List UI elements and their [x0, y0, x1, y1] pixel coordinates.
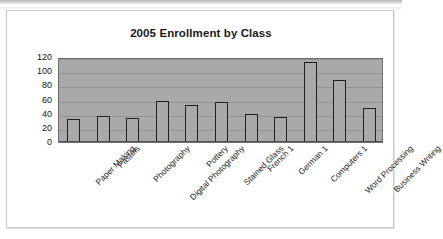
y-tick-label: 120 [37, 53, 52, 62]
y-axis-tick-labels: 020406080100120 [23, 58, 55, 143]
x-axis-category-labels: Paper MakingPastelsPhotographyDigital Ph… [58, 144, 398, 224]
y-tick-label: 60 [42, 96, 52, 105]
bar [363, 108, 376, 142]
y-tick-label: 40 [42, 110, 52, 119]
bar [126, 118, 139, 142]
bar [245, 114, 258, 142]
plot-wrapper [58, 58, 383, 143]
x-category-label: Pastels [116, 144, 142, 170]
chart-card: 2005 Enrollment by Class 020406080100120… [6, 10, 394, 228]
y-tick-label: 80 [42, 81, 52, 90]
bar [333, 80, 346, 142]
bar-series [59, 59, 382, 142]
bar [274, 117, 287, 142]
bar [67, 119, 80, 142]
x-category-label: German 1 [296, 144, 329, 177]
x-axis-line [59, 141, 382, 142]
bar [185, 105, 198, 142]
y-tick-label: 100 [37, 67, 52, 76]
bar [156, 101, 169, 142]
x-category-label: Photography [152, 144, 192, 184]
y-tick-label: 0 [47, 138, 52, 147]
bar [304, 62, 317, 142]
x-category-label: Computers 1 [329, 144, 369, 184]
chart-title: 2005 Enrollment by Class [7, 27, 395, 39]
y-tick-label: 20 [42, 124, 52, 133]
x-category-label: Word Processing [363, 144, 414, 195]
bar [97, 116, 110, 142]
scan-edge-strip [0, 0, 402, 4]
bar [215, 102, 228, 142]
plot-area [58, 58, 383, 143]
scan-edge-strip-secondary [0, 7, 402, 9]
